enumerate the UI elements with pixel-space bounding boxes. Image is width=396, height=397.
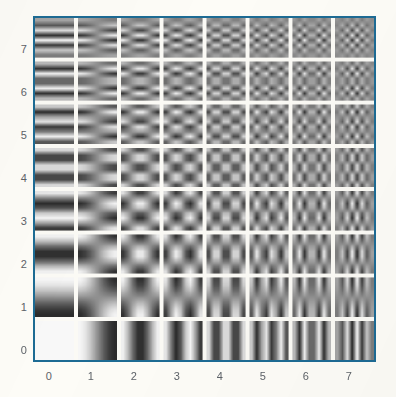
y-tick-label-4: 4: [13, 173, 27, 184]
y-tick-label-6: 6: [13, 87, 27, 98]
x-tick-label-6: 6: [298, 371, 314, 382]
y-tick-label-2: 2: [13, 259, 27, 270]
x-tick-label-3: 3: [169, 371, 185, 382]
x-tick-label-1: 1: [83, 371, 99, 382]
dct-basis-figure: 0 1 2 3 4 5 6 7 0 1 2 3 4 5 6 7: [0, 0, 396, 397]
x-tick-label-7: 7: [341, 371, 357, 382]
dct-basis-grid: [35, 18, 374, 360]
x-tick-label-2: 2: [126, 371, 142, 382]
y-tick-label-5: 5: [13, 130, 27, 141]
y-tick-label-3: 3: [13, 216, 27, 227]
y-tick-label-7: 7: [13, 44, 27, 55]
y-tick-label-0: 0: [13, 345, 27, 356]
x-tick-label-0: 0: [41, 371, 57, 382]
y-tick-label-1: 1: [13, 302, 27, 313]
x-tick-label-4: 4: [212, 371, 228, 382]
x-tick-label-5: 5: [255, 371, 271, 382]
plot-frame: [33, 16, 376, 362]
